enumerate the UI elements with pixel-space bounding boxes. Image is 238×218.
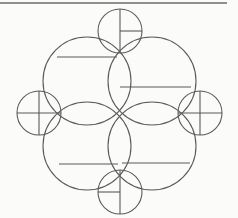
- diagram-page: [0, 0, 238, 218]
- small-west: [17, 91, 61, 135]
- diagram-background: [0, 0, 238, 218]
- small-east: [178, 91, 222, 135]
- circle-packing-diagram: [0, 0, 238, 218]
